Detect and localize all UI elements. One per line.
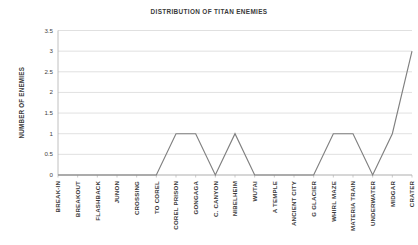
x-axis-tick-label: MATERIA TRAIN xyxy=(349,181,356,231)
y-axis-tick-label: 3 xyxy=(50,47,54,54)
x-axis-tick-label: NIBELHEIM xyxy=(231,181,238,216)
y-axis-tick-label: 1.5 xyxy=(44,109,53,116)
line-chart-plot: 00.511.522.533.5BREAK-INBREAKOUTFLASHBAC… xyxy=(0,0,418,245)
x-axis-tick-label: WUTAI xyxy=(251,181,258,202)
x-axis-tick-label: CROSSING xyxy=(133,181,140,215)
x-axis-tick-label: WHIRL MAZE xyxy=(330,181,337,222)
x-axis-tick-label: A TEMPLE xyxy=(271,181,278,213)
x-axis-tick-label: C. CANYON xyxy=(212,181,219,217)
x-axis-tick-label: CRATER xyxy=(408,181,415,208)
y-axis-tick-label: 1 xyxy=(50,130,54,137)
x-axis-tick-label: ANCIENT CITY xyxy=(290,181,297,226)
x-axis-tick-label: MIDGAR xyxy=(389,181,396,207)
y-axis-tick-label: 3.5 xyxy=(44,27,53,34)
x-axis-tick-label: JUNON xyxy=(113,181,120,203)
y-axis-tick-label: 0.5 xyxy=(44,150,53,157)
x-axis-tick-label: COREL PRISON xyxy=(172,181,179,230)
y-axis-title: NUMBER OF ENEMIES xyxy=(18,67,25,139)
x-axis-tick-label: BREAK-IN xyxy=(54,181,61,212)
x-axis-tick-label: TO COREL xyxy=(153,181,160,214)
x-axis-tick-label: BREAKOUT xyxy=(74,181,81,217)
y-axis-tick-label: 0 xyxy=(50,171,54,178)
x-axis-tick-label: FLASHBACK xyxy=(94,181,101,221)
x-axis-tick-label: UNDERWATER xyxy=(369,181,376,227)
x-axis-tick-label: G GLACIER xyxy=(310,181,317,217)
chart-figure: DISTRIBUTION OF TITAN ENEMIES 00.511.522… xyxy=(0,0,418,245)
x-axis-tick-label: GONGAGA xyxy=(192,181,199,215)
y-axis-tick-label: 2 xyxy=(50,88,54,95)
y-axis-tick-label: 2.5 xyxy=(44,68,53,75)
